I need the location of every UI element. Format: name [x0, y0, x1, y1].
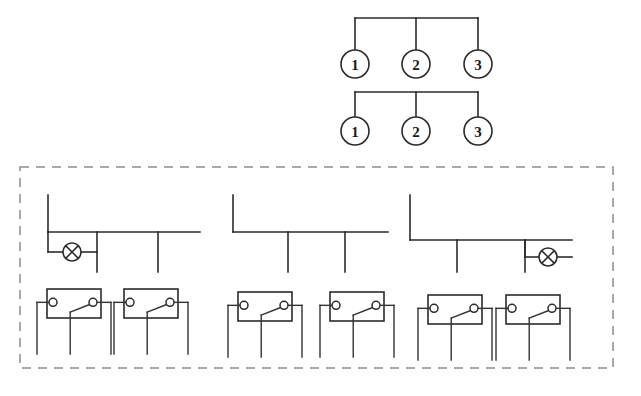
schematic-canvas: 123123 — [0, 0, 641, 396]
feeder-branch-feeder-middle — [233, 195, 388, 272]
relay-contact-relay-2 — [114, 289, 188, 354]
relay-terminal-common — [126, 298, 134, 306]
relay-contact-row — [37, 289, 570, 360]
feeder-branch-feeder-left — [48, 195, 200, 272]
terminal-number-label: 2 — [412, 57, 420, 73]
relay-contact-relay-5 — [418, 295, 492, 360]
relay-terminal-common — [240, 301, 248, 309]
relay-switch-blade — [451, 311, 470, 318]
relay-terminal-common — [430, 304, 438, 312]
relay-contact-relay-1 — [37, 289, 111, 354]
relay-terminal-no — [548, 304, 556, 312]
relay-terminal-no — [166, 298, 174, 306]
relay-contact-relay-4 — [320, 292, 394, 357]
terminal-number-label: 3 — [474, 124, 482, 140]
dashed-enclosure — [20, 167, 613, 368]
relay-terminal-common — [508, 304, 516, 312]
relay-terminal-common — [49, 298, 57, 306]
terminal-number-label: 2 — [412, 124, 420, 140]
relay-terminal-no — [89, 298, 97, 306]
feeder-branch-feeder-right — [410, 195, 572, 272]
terminal-group-group-upper: 123 — [341, 18, 492, 78]
relay-terminal-no — [280, 301, 288, 309]
relay-switch-blade — [70, 305, 89, 312]
relay-terminal-no — [372, 301, 380, 309]
relay-switch-blade — [261, 308, 280, 315]
relay-switch-blade — [147, 305, 166, 312]
relay-switch-blade — [529, 311, 548, 318]
terminal-number-label: 3 — [474, 57, 482, 73]
enclosure-boundary — [20, 167, 613, 368]
relay-terminal-common — [332, 301, 340, 309]
relay-switch-blade — [353, 308, 372, 315]
schematic-diagram-root: 123123 — [0, 0, 641, 396]
terminal-number-label: 1 — [351, 57, 359, 73]
numbered-terminal-groups: 123123 — [341, 18, 492, 145]
relay-contact-relay-3 — [228, 292, 302, 357]
terminal-number-label: 1 — [351, 124, 359, 140]
three-feeder-branches — [48, 195, 572, 272]
terminal-group-group-lower: 123 — [341, 92, 492, 145]
relay-terminal-no — [470, 304, 478, 312]
relay-contact-relay-6 — [496, 295, 570, 360]
